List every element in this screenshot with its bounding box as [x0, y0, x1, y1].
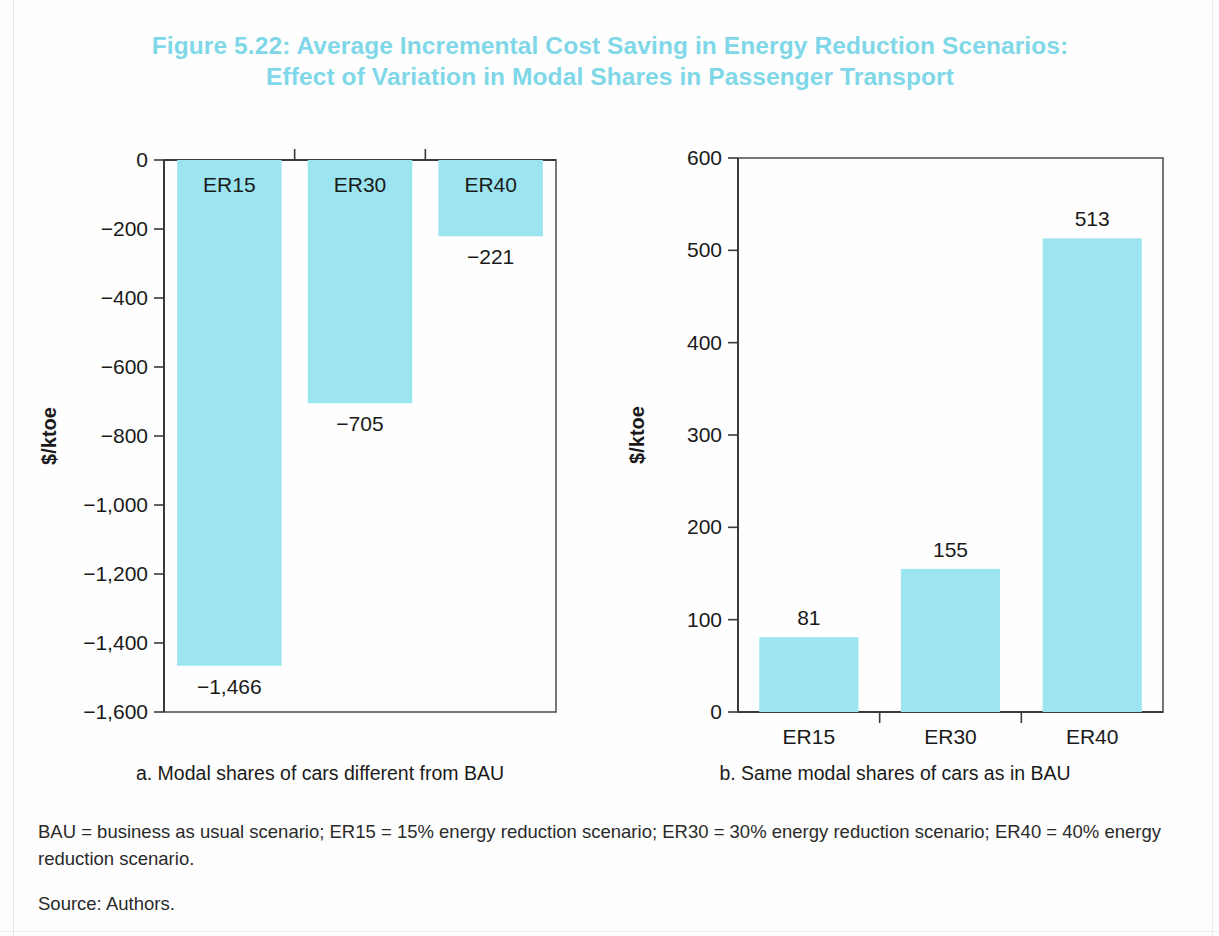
- bar-category-label-ER40: ER40: [464, 173, 517, 196]
- y-axis-tick-label: −1,200: [83, 562, 148, 585]
- bar-value-label-ER40: −221: [467, 245, 514, 268]
- y-axis-tick-label: −600: [101, 355, 148, 378]
- bar-category-label-ER15: ER15: [203, 173, 256, 196]
- bar-chart-a: 0−200−400−600−800−1,000−1,200−1,400−1,60…: [30, 128, 590, 753]
- y-axis-tick-label: 400: [687, 331, 722, 354]
- bar-value-label-ER30: −705: [336, 412, 383, 435]
- bar-value-label-ER30: 155: [933, 538, 968, 561]
- bar-group-ER15: ER15−1,466: [177, 160, 282, 698]
- bar-chart-b: 010020030040050060081ER15155ER30513ER40$…: [610, 128, 1190, 753]
- notes-abbreviations: BAU = business as usual scenario; ER15 =…: [38, 818, 1168, 872]
- y-axis-tick-label: 600: [687, 146, 722, 169]
- chart-panel-a: 0−200−400−600−800−1,000−1,200−1,400−1,60…: [30, 128, 590, 753]
- x-axis-category-label-ER40: ER40: [1066, 725, 1119, 748]
- x-axis-category-label-ER30: ER30: [924, 725, 977, 748]
- bar-group-ER40: 513ER40: [1043, 207, 1142, 748]
- figure-title-line-2: Effect of Variation in Modal Shares in P…: [60, 61, 1160, 92]
- bar-ER15[interactable]: [759, 637, 858, 712]
- bar-group-ER30: 155ER30: [901, 538, 1000, 748]
- figure-page: Figure 5.22: Average Incremental Cost Sa…: [0, 0, 1219, 936]
- scan-artifact-bottom-edge: [0, 931, 1219, 932]
- y-axis-tick-label: 200: [687, 515, 722, 538]
- bar-group-ER15: 81ER15: [759, 606, 858, 748]
- bar-value-label-ER40: 513: [1075, 207, 1110, 230]
- bar-category-label-ER30: ER30: [334, 173, 387, 196]
- bar-ER40[interactable]: [1043, 238, 1142, 712]
- panel-b-caption: b. Same modal shares of cars as in BAU: [610, 762, 1180, 785]
- y-axis-tick-label: −800: [101, 424, 148, 447]
- x-axis-category-label-ER15: ER15: [783, 725, 836, 748]
- bar-group-ER40: ER40−221: [438, 160, 543, 268]
- y-axis-tick-label: 500: [687, 238, 722, 261]
- charts-container: 0−200−400−600−800−1,000−1,200−1,400−1,60…: [0, 128, 1219, 798]
- y-axis-tick-label: −200: [101, 217, 148, 240]
- bar-ER40[interactable]: [438, 160, 543, 236]
- y-axis-tick-label: 0: [710, 700, 722, 723]
- y-axis-title: $/ktoe: [38, 407, 60, 465]
- bar-value-label-ER15: 81: [797, 606, 820, 629]
- y-axis-tick-label: −1,000: [83, 493, 148, 516]
- y-axis-tick-label: −1,600: [83, 700, 148, 723]
- panel-a-caption: a. Modal shares of cars different from B…: [50, 762, 590, 785]
- notes-source: Source: Authors.: [38, 890, 1168, 917]
- y-axis-tick-label: 100: [687, 608, 722, 631]
- figure-notes: BAU = business as usual scenario; ER15 =…: [38, 818, 1168, 917]
- y-axis-tick-label: −1,400: [83, 631, 148, 654]
- y-axis-tick-label: 0: [136, 148, 148, 171]
- figure-title-line-1: Figure 5.22: Average Incremental Cost Sa…: [152, 32, 1069, 59]
- y-axis-tick-label: 300: [687, 423, 722, 446]
- chart-panel-b: 010020030040050060081ER15155ER30513ER40$…: [610, 128, 1190, 753]
- y-axis-tick-label: −400: [101, 286, 148, 309]
- bar-ER30[interactable]: [901, 569, 1000, 712]
- bar-ER15[interactable]: [177, 160, 282, 666]
- y-axis-title: $/ktoe: [626, 406, 648, 464]
- figure-title: Figure 5.22: Average Incremental Cost Sa…: [60, 30, 1160, 92]
- bar-group-ER30: ER30−705: [308, 160, 413, 435]
- bar-value-label-ER15: −1,466: [197, 675, 262, 698]
- bar-ER30[interactable]: [308, 160, 413, 403]
